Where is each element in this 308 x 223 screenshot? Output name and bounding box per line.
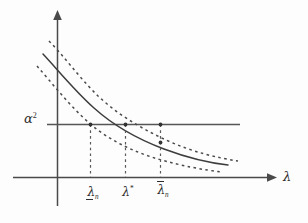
underbar-accent-icon — [86, 199, 93, 200]
center-curve — [43, 54, 228, 165]
alpha-squared-base: α — [24, 111, 33, 126]
tick-label-lambda-star: λ* — [113, 186, 143, 198]
tick-label-lambda-upper-n: λn — [148, 184, 178, 196]
alpha-squared-exponent: 2 — [33, 111, 37, 120]
lambda-star-base: λ — [122, 185, 130, 199]
figure-canvas: α2 λ λn λ* λn — [0, 0, 308, 223]
lambda-upper-n-base: λ — [157, 184, 165, 196]
lambda-upper-n-subscript: n — [165, 191, 169, 199]
x-axis-label: λ — [283, 170, 291, 183]
axes-group — [13, 10, 277, 206]
lambda-lower-n-stack: λn — [87, 186, 98, 198]
lambda-star-superscript: * — [130, 184, 134, 193]
lambda-lower-n-base: λ — [87, 186, 95, 198]
tick-label-lambda-lower-n: λn — [78, 186, 108, 198]
marker-center-curve-at-upper-bound — [159, 141, 163, 145]
upper-band-curve — [49, 41, 238, 161]
lower-band-curve — [37, 66, 222, 172]
marker-lambda-star — [124, 123, 128, 127]
marker-lambda-lower-n — [89, 123, 93, 127]
lambda-lower-n-subscript: n — [95, 193, 99, 201]
x-axis-label-text: λ — [283, 169, 291, 184]
vertical-axis-arrow-icon — [53, 10, 62, 20]
lambda-upper-n-stack: λn — [157, 184, 168, 196]
alpha-squared-label: α2 — [24, 112, 37, 125]
horizontal-axis-arrow-icon — [267, 173, 277, 182]
marker-lambda-upper-n — [159, 123, 163, 127]
overbar-accent-icon — [157, 181, 164, 182]
